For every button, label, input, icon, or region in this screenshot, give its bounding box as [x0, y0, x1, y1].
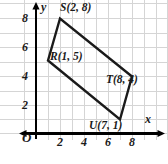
label-point-r: R(1, 5) [50, 51, 83, 63]
x-tick-6: 6 [105, 136, 111, 148]
x-tick-2: 2 [57, 136, 63, 148]
x-axis-label: x [145, 113, 151, 125]
y-tick-8: 8 [22, 12, 28, 24]
coordinate-plane-figure: S(2, 8) R(1, 5) T(8, 4) U(7, 1) y x O 2 … [0, 0, 168, 164]
y-tick-4: 4 [22, 70, 28, 82]
y-tick-6: 6 [22, 41, 28, 53]
y-axis [32, 2, 39, 138]
x-tick-4: 4 [81, 136, 87, 148]
x-tick-8: 8 [129, 136, 135, 148]
y-tick-2: 2 [22, 99, 28, 111]
origin-label: O [22, 131, 31, 144]
label-point-t: T(8, 4) [106, 74, 138, 86]
y-axis-label: y [41, 1, 46, 13]
label-point-s: S(2, 8) [60, 2, 91, 14]
label-point-u: U(7, 1) [89, 120, 122, 132]
